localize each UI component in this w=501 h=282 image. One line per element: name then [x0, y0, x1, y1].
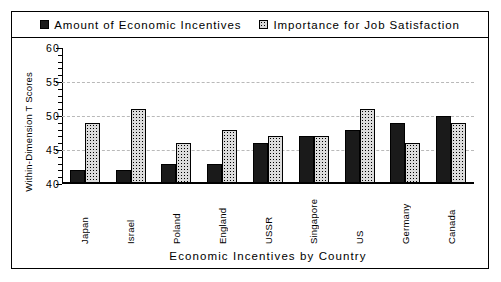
bar-us-series-2: [360, 109, 375, 184]
bar-poland-series-1: [161, 164, 176, 184]
chart-legend: Amount of Economic Incentives Importance…: [12, 12, 488, 38]
x-tick-label-text: Singapore: [308, 188, 319, 244]
x-tick-label-text: Japan: [79, 188, 90, 244]
bar-poland-series-2: [176, 143, 191, 184]
y-major-tick-40: [56, 184, 62, 185]
x-tick-label-us: US: [337, 188, 383, 244]
x-tick-label-text: Canada: [446, 188, 457, 244]
bar-japan-series-2: [85, 123, 100, 184]
x-tick-label-poland: Poland: [154, 188, 200, 244]
legend-item-importance-for-job-satisfaction: Importance for Job Satisfaction: [259, 19, 459, 31]
bar-germany-series-1: [390, 123, 405, 184]
bar-canada-series-1: [436, 116, 451, 184]
bar-groups: [62, 48, 474, 184]
bar-singapore-series-2: [314, 136, 329, 184]
plot-area: Within-Dimension T Scores 4045505560 Jap…: [12, 38, 488, 268]
bar-group-germany: [382, 48, 428, 184]
y-axis-tick-labels: 4045505560: [36, 38, 60, 198]
x-tick-label-text: Germany: [400, 188, 411, 244]
bar-ussr-series-2: [268, 136, 283, 184]
bar-group-israel: [108, 48, 154, 184]
x-tick-label-england: England: [199, 188, 245, 244]
bar-england-series-2: [222, 130, 237, 184]
x-tick-label-ussr: USSR: [245, 188, 291, 244]
bar-group-england: [199, 48, 245, 184]
bar-group-japan: [62, 48, 108, 184]
x-tick-label-text: England: [217, 188, 228, 244]
y-axis-title-text: Within-Dimension T Scores: [23, 72, 34, 192]
x-tick-label-singapore: Singapore: [291, 188, 337, 244]
x-axis-title: Economic Incentives by Country: [62, 250, 474, 262]
bar-us-series-1: [345, 130, 360, 184]
x-tick-label-text: Poland: [171, 188, 182, 244]
x-tick-label-text: USSR: [263, 188, 274, 244]
x-tick-label-text: Israel: [125, 188, 136, 244]
bar-ussr-series-1: [253, 143, 268, 184]
chart-frame: Amount of Economic Incentives Importance…: [11, 11, 489, 269]
legend-swatch-solid-square-icon: [40, 20, 49, 29]
axes: [62, 48, 474, 184]
legend-label-series-2: Importance for Job Satisfaction: [273, 19, 459, 31]
bar-group-canada: [428, 48, 474, 184]
x-tick-label-text: US: [354, 188, 365, 244]
x-axis-line: [62, 182, 474, 184]
bar-group-singapore: [291, 48, 337, 184]
bar-england-series-1: [207, 164, 222, 184]
legend-item-amount-of-economic-incentives: Amount of Economic Incentives: [40, 19, 241, 31]
legend-label-series-1: Amount of Economic Incentives: [54, 19, 241, 31]
bar-israel-series-2: [131, 109, 146, 184]
bar-group-us: [337, 48, 383, 184]
bar-group-poland: [154, 48, 200, 184]
x-tick-label-israel: Israel: [108, 188, 154, 244]
x-tick-label-germany: Germany: [382, 188, 428, 244]
x-axis-tick-labels: JapanIsraelPolandEnglandUSSRSingaporeUSG…: [62, 188, 474, 244]
x-tick-label-japan: Japan: [62, 188, 108, 244]
bar-canada-series-2: [451, 123, 466, 184]
bar-germany-series-2: [405, 143, 420, 184]
x-tick-label-canada: Canada: [428, 188, 474, 244]
y-axis-title: Within-Dimension T Scores: [21, 62, 35, 202]
bar-singapore-series-1: [299, 136, 314, 184]
legend-swatch-dotted-square-icon: [259, 20, 268, 29]
bar-group-ussr: [245, 48, 291, 184]
